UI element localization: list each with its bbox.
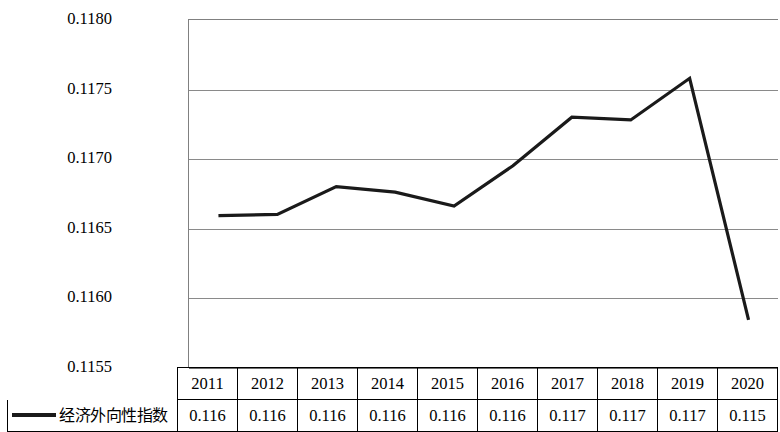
legend-label: 经济外向性指数 — [59, 400, 168, 431]
table-year-cell: 2013 — [298, 368, 358, 400]
y-tick-label: 0.1160 — [67, 287, 112, 307]
table-value-cell: 0.116 — [178, 400, 238, 432]
data-table: 2011201220132014201520162017201820192020… — [7, 367, 778, 432]
table-year-cell: 2020 — [718, 368, 778, 400]
legend-spacer-cell — [8, 368, 178, 400]
plot-region: 0.11550.11600.11650.11700.11750.1180 — [0, 0, 780, 368]
y-tick-label: 0.1165 — [67, 218, 112, 238]
table-year-cell: 2015 — [418, 368, 478, 400]
legend-cell: 经济外向性指数 — [8, 400, 178, 432]
table-value-cell: 0.115 — [718, 400, 778, 432]
y-tick-label: 0.1170 — [67, 148, 112, 168]
y-tick-label: 0.1180 — [67, 9, 112, 29]
table-value-cell: 0.117 — [598, 400, 658, 432]
table-value-cell: 0.116 — [298, 400, 358, 432]
table-value-cell: 0.117 — [658, 400, 718, 432]
y-axis: 0.11550.11600.11650.11700.11750.1180 — [0, 0, 180, 368]
table-year-cell: 2012 — [238, 368, 298, 400]
table-value-cell: 0.117 — [538, 400, 598, 432]
table-value-cell: 0.116 — [418, 400, 478, 432]
table-value-row: 经济外向性指数 0.1160.1160.1160.1160.1160.1160.… — [8, 400, 778, 432]
table-year-cell: 2011 — [178, 368, 238, 400]
series-line-economic-extroversion-index — [189, 20, 778, 367]
table-year-cell: 2017 — [538, 368, 598, 400]
y-tick-label: 0.1175 — [67, 79, 112, 99]
table-header-row: 2011201220132014201520162017201820192020 — [8, 368, 778, 400]
table-value-cell: 0.116 — [238, 400, 298, 432]
legend-line-icon — [12, 413, 56, 417]
table-year-cell: 2016 — [478, 368, 538, 400]
table-value-cell: 0.116 — [478, 400, 538, 432]
table-year-cell: 2019 — [658, 368, 718, 400]
table-year-cell: 2014 — [358, 368, 418, 400]
table-value-cell: 0.116 — [358, 400, 418, 432]
table-year-cell: 2018 — [598, 368, 658, 400]
plot-area — [188, 19, 778, 367]
